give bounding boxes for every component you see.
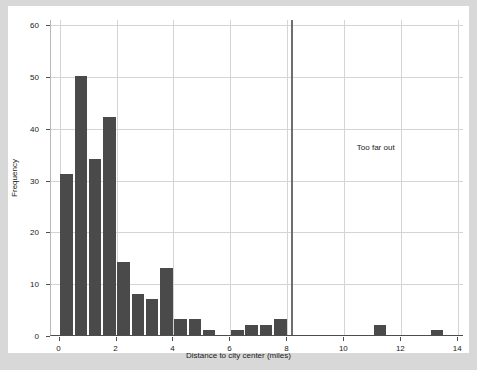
histogram-bar: [89, 159, 102, 335]
histogram-bar: [231, 330, 244, 335]
x-tick-mark: [343, 337, 344, 341]
histogram-bar: [245, 325, 258, 335]
gridline-x-8: [287, 20, 288, 335]
histogram-bar: [146, 299, 159, 335]
gridline-x-6: [230, 20, 231, 335]
gridline-x-14: [458, 20, 459, 335]
y-tick-label: 60: [30, 21, 39, 30]
histogram-bar: [60, 174, 73, 335]
y-tick-label: 50: [30, 72, 39, 81]
y-tick-label: 30: [30, 176, 39, 185]
histogram-bar: [117, 262, 130, 335]
y-tick-label: 10: [30, 280, 39, 289]
x-tick-mark: [229, 337, 230, 341]
x-tick-mark: [457, 337, 458, 341]
y-tick-mark: [46, 181, 50, 182]
y-tick-mark: [46, 25, 50, 26]
histogram-bar: [189, 319, 202, 335]
x-tick-mark: [116, 337, 117, 341]
histogram-bar: [374, 325, 387, 335]
x-tick-mark: [59, 337, 60, 341]
histogram-bar: [132, 294, 145, 335]
histogram-bar: [160, 268, 173, 335]
histogram-bar: [75, 76, 88, 335]
histogram-bar: [260, 325, 273, 335]
histogram-bar: [103, 117, 116, 335]
y-axis-label: Frequency: [10, 159, 19, 197]
y-tick-mark: [46, 77, 50, 78]
gridline-x-12: [401, 20, 402, 335]
threshold-line: [291, 20, 293, 335]
x-axis-label: Distance to city center (miles): [8, 351, 469, 360]
x-tick-mark: [400, 337, 401, 341]
histogram-bar: [174, 319, 187, 335]
plot-area: Too far out: [50, 20, 463, 336]
histogram-bar: [274, 319, 287, 335]
gridline-x-10: [344, 20, 345, 335]
y-tick-mark: [46, 284, 50, 285]
histogram-bar: [431, 330, 444, 335]
annotation-too-far-out: Too far out: [357, 142, 395, 151]
y-tick-label: 40: [30, 124, 39, 133]
y-tick-mark: [46, 232, 50, 233]
histogram-bar: [203, 330, 216, 335]
gridline-x-4: [173, 20, 174, 335]
figure-canvas: Too far out 0102030405060 02468101214 Fr…: [8, 6, 469, 353]
x-tick-mark: [286, 337, 287, 341]
y-tick-label: 20: [30, 228, 39, 237]
x-tick-mark: [172, 337, 173, 341]
y-tick-mark: [46, 129, 50, 130]
